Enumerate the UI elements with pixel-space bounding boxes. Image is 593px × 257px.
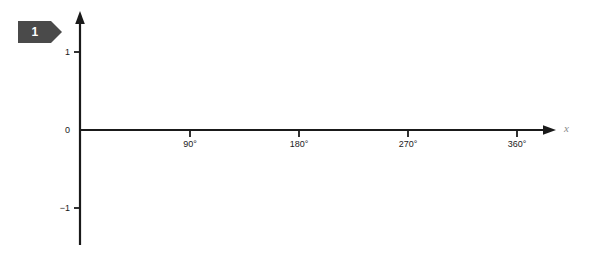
coordinate-plane	[0, 0, 593, 257]
x-tick-label-360: 360°	[508, 139, 527, 149]
x-axis-arrowhead	[543, 125, 556, 135]
y-axis-arrowhead	[75, 11, 85, 24]
y-tick-label-0: 0	[65, 125, 70, 135]
y-tick-label-1: 1	[65, 47, 70, 57]
step-badge: 1	[18, 21, 62, 43]
x-tick-label-90: 90°	[183, 139, 197, 149]
x-tick-label-180: 180°	[290, 139, 309, 149]
step-badge-label: 1	[18, 21, 52, 43]
y-tick-label-minus-1: −1	[60, 203, 70, 213]
x-axis-label: x	[564, 122, 569, 134]
figure-canvas: 1 0 −1 90° 180° 270° 360° x 1	[0, 0, 593, 257]
x-tick-label-270: 270°	[399, 139, 418, 149]
